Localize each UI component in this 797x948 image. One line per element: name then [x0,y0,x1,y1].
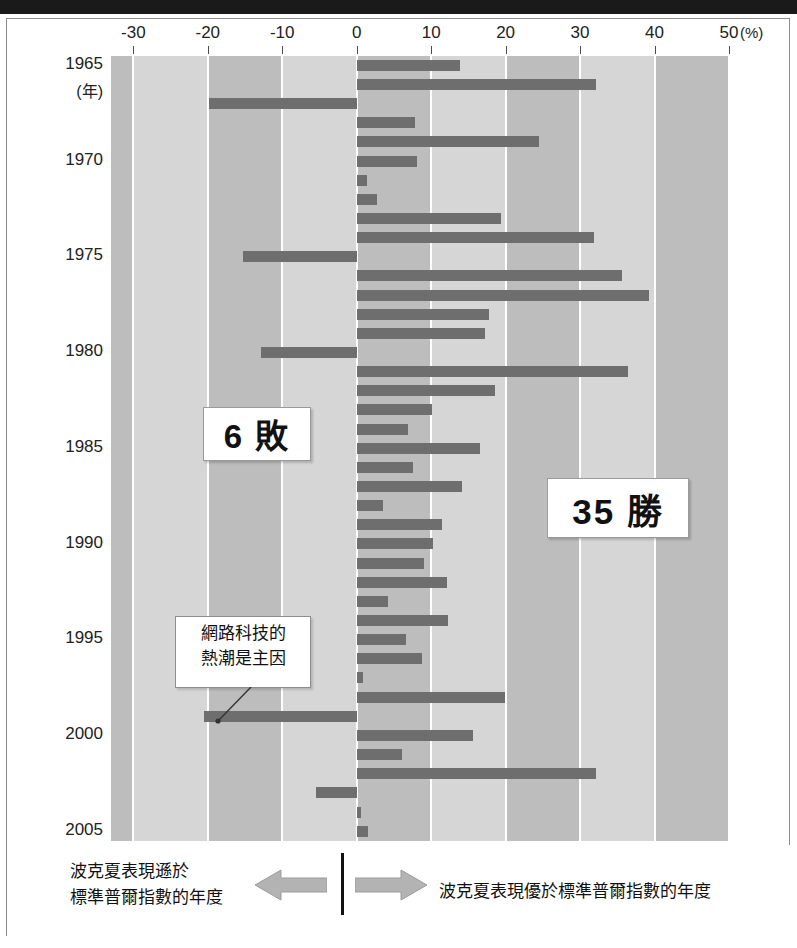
chart-area: 196519701975198019851990199520002005(年) … [7,19,791,937]
bar [357,175,367,186]
background-band [655,56,729,841]
bar [357,596,388,607]
year-axis-label: 1970 [65,150,103,170]
annotation-line-1: 網路科技的 [183,622,303,647]
bar [357,519,442,530]
bar [357,309,490,320]
bar [357,481,463,492]
x-axis-tick-label: 30 [571,23,590,43]
bar [357,290,650,301]
x-axis-tick [655,46,656,54]
background-band [111,56,133,841]
top-black-band [0,0,797,14]
x-axis-tick [729,46,730,54]
x-axis-tick-label: 50 [720,23,739,43]
bar [357,692,505,703]
bar [357,443,480,454]
x-axis-tick [357,46,358,54]
chart-page: 196519701975198019851990199520002005(年) … [0,0,797,948]
year-axis-label: 1995 [65,628,103,648]
x-axis-tick-label: -10 [270,23,295,43]
bar [209,98,357,109]
bar [357,749,402,760]
x-axis-tick-label: 40 [645,23,664,43]
x-axis-tick-label: -30 [121,23,146,43]
year-axis-label: 2000 [65,724,103,744]
x-axis-tick [506,46,507,54]
bar [357,826,368,837]
wins-callout: 35 勝 [547,478,689,538]
background-band [133,56,207,841]
legend-right-text: 波克夏表現優於標準普爾指數的年度 [439,877,711,902]
bar [357,462,413,473]
losses-callout: 6 敗 [203,407,311,461]
x-axis-tick [431,46,432,54]
x-axis-tick [282,46,283,54]
bar [357,558,424,569]
chart-frame: 196519701975198019851990199520002005(年) … [6,18,790,936]
arrow-left-icon [255,867,327,903]
legend-left-text: 波克夏表現遜於 標準普爾指數的年度 [70,859,223,912]
bar [357,634,406,645]
bar [357,366,628,377]
bar [357,577,447,588]
gridline [579,56,581,841]
x-axis-tick-label: 20 [496,23,515,43]
annotation-box: 網路科技的 熱潮是主因 [175,616,311,688]
year-axis-label: 1975 [65,245,103,265]
annotation-line-2: 熱潮是主因 [183,647,303,672]
bar [357,500,383,511]
bar [357,117,415,128]
bar [357,136,539,147]
bar [261,347,356,358]
bar [316,787,357,798]
bar [357,538,433,549]
year-axis-label: 1985 [65,437,103,457]
gridline [654,56,656,841]
bar [357,807,361,818]
legend-left-line-2: 標準普爾指數的年度 [70,885,223,911]
bar [357,213,501,224]
bar [357,768,596,779]
bar [357,404,432,415]
x-axis-unit-label: (%) [740,24,763,41]
x-axis-tick [133,46,134,54]
annotation-leader-line [213,687,253,727]
bar [357,615,449,626]
bar [357,156,417,167]
bar [357,653,423,664]
bar [243,251,357,262]
background-band [580,56,654,841]
legend: 波克夏表現遜於 標準普爾指數的年度 波克夏表現優於標準普爾指數的年度 [7,845,791,937]
x-axis-tick-label: 10 [422,23,441,43]
bar [357,270,622,281]
arrow-right-icon [355,867,427,903]
bar [357,232,595,243]
year-axis-label: 1980 [65,341,103,361]
bar [357,79,597,90]
bar [357,328,485,339]
year-axis-unit-label: (年) [76,78,103,102]
x-axis-tick-label: 0 [352,23,361,43]
bar [357,672,363,683]
bar [357,730,473,741]
bar [357,424,408,435]
x-axis-tick [580,46,581,54]
year-axis-label: 1990 [65,533,103,553]
gridline [505,56,507,841]
year-axis: 196519701975198019851990199520002005(年) [7,19,103,937]
bar [357,385,495,396]
year-axis-label: 2005 [65,820,103,840]
x-axis-tick [208,46,209,54]
legend-center-divider [341,853,344,915]
bar [357,60,460,71]
year-axis-label: 1965 [65,54,103,74]
gridline [132,56,134,841]
legend-left-line-1: 波克夏表現遜於 [70,859,223,885]
x-axis-tick-label: -20 [195,23,220,43]
bar [357,194,377,205]
gridline [728,56,729,841]
background-band [506,56,580,841]
